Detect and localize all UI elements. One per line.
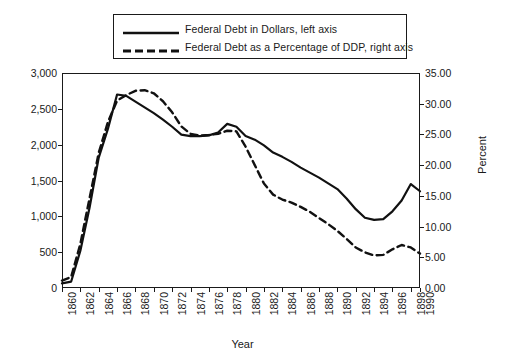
legend-label-federal-debt-dollars: Federal Debt in Dollars, left axis (185, 23, 337, 35)
chart-series-layer (62, 73, 420, 288)
y-axis-left: 05001,0001,5002,0002,5003,000 (0, 0, 57, 362)
x-axis-tick-mark (356, 288, 357, 292)
x-axis-tick-label: 1890 (341, 292, 353, 315)
x-axis-title: Year (0, 338, 485, 350)
x-axis-tick-label: 1868 (139, 292, 151, 315)
y-axis-right-tick-mark (419, 104, 424, 105)
x-axis-tick-mark (301, 288, 302, 292)
y-axis-right-title: Percent (476, 136, 488, 174)
y-axis-right-tick-label: 10.00 (425, 221, 479, 233)
x-axis-tick-mark (420, 288, 421, 292)
x-axis-tick-mark (374, 288, 375, 292)
y-axis-left-tick-label: 3,000 (5, 67, 57, 79)
x-axis-tick-label: 1878 (231, 292, 243, 315)
x-axis-tick-mark (135, 288, 136, 292)
x-axis-tick-label: 1990 (424, 292, 436, 315)
y-axis-right-tick-label: 5.00 (425, 251, 479, 263)
y-axis-left-tick-mark (58, 109, 63, 110)
x-axis-tick-mark (209, 288, 210, 292)
series-line-federal-debt-percentage (62, 90, 420, 280)
y-axis-left-tick-mark (58, 181, 63, 182)
x-axis-tick-mark (392, 288, 393, 292)
x-axis-tick-label: 1866 (121, 292, 133, 315)
x-axis-tick-label: 1876 (213, 292, 225, 315)
x-axis-tick-label: 1864 (103, 292, 115, 315)
y-axis-right-tick-mark (419, 257, 424, 258)
x-axis-tick-label: 1872 (176, 292, 188, 315)
x-axis-tick-mark (282, 288, 283, 292)
y-axis-right-tick-label: 15.00 (425, 190, 479, 202)
x-axis-tick-mark (117, 288, 118, 292)
y-axis-right-tick-mark (419, 165, 424, 166)
y-axis-right-tick-mark (419, 227, 424, 228)
y-axis-right-tick-label: 25.00 (425, 128, 479, 140)
legend-item-federal-debt-dollars: Federal Debt in Dollars, left axis (123, 21, 337, 37)
x-axis-tick-mark (154, 288, 155, 292)
x-axis-tick-label: 1860 (66, 292, 78, 315)
x-axis-tick-label: 1896 (396, 292, 408, 315)
x-axis-tick-label: 1894 (378, 292, 390, 315)
chart-container: Federal Debt in Dollars, left axis Feder… (0, 0, 527, 362)
y-axis-left-tick-mark (58, 145, 63, 146)
x-axis-tick-mark (191, 288, 192, 292)
y-axis-right-tick-mark (419, 196, 424, 197)
y-axis-left-tick-label: 2,500 (5, 103, 57, 115)
x-axis-tick-mark (411, 288, 412, 292)
x-axis-tick-mark (172, 288, 173, 292)
x-axis-tick-label: 1874 (195, 292, 207, 315)
y-axis-left-tick-label: 500 (5, 246, 57, 258)
y-axis-left-tick-label: 0 (5, 282, 57, 294)
legend-label-federal-debt-percentage: Federal Debt as a Percentage of DDP, rig… (185, 41, 413, 53)
legend-swatch-dashed-line-icon (123, 42, 179, 52)
x-axis-tick-label: 1862 (84, 292, 96, 315)
legend-item-federal-debt-percentage: Federal Debt as a Percentage of DDP, rig… (123, 39, 413, 55)
x-axis-tick-mark (246, 288, 247, 292)
x-axis-tick-mark (80, 288, 81, 292)
x-axis-tick-mark (227, 288, 228, 292)
x-axis-tick-label: 1870 (158, 292, 170, 315)
series-line-federal-debt-dollars (62, 95, 420, 284)
y-axis-right-tick-label: 30.00 (425, 98, 479, 110)
x-axis-tick-label: 1892 (360, 292, 372, 315)
y-axis-left-tick-mark (58, 252, 63, 253)
x-axis-tick-mark (264, 288, 265, 292)
y-axis-right-tick-mark (419, 134, 424, 135)
x-axis-tick-label: 1880 (250, 292, 262, 315)
x-axis-tick-label: 1884 (286, 292, 298, 315)
x-axis-tick-mark (99, 288, 100, 292)
legend-swatch-solid-line-icon (123, 24, 179, 34)
x-axis-tick-mark (337, 288, 338, 292)
y-axis-left-tick-mark (58, 216, 63, 217)
x-axis-tick-label: 1886 (305, 292, 317, 315)
x-axis-tick-mark (62, 288, 63, 292)
y-axis-right-tick-label: 35.00 (425, 67, 479, 79)
x-axis-tick-label: 1882 (268, 292, 280, 315)
y-axis-left-tick-label: 1,000 (5, 210, 57, 222)
y-axis-right-tick-label: 20.00 (425, 159, 479, 171)
y-axis-left-tick-label: 1,500 (5, 175, 57, 187)
x-axis-tick-mark (319, 288, 320, 292)
chart-legend: Federal Debt in Dollars, left axis Feder… (113, 14, 407, 59)
x-axis-tick-label: 1888 (323, 292, 335, 315)
y-axis-left-tick-label: 2,000 (5, 139, 57, 151)
